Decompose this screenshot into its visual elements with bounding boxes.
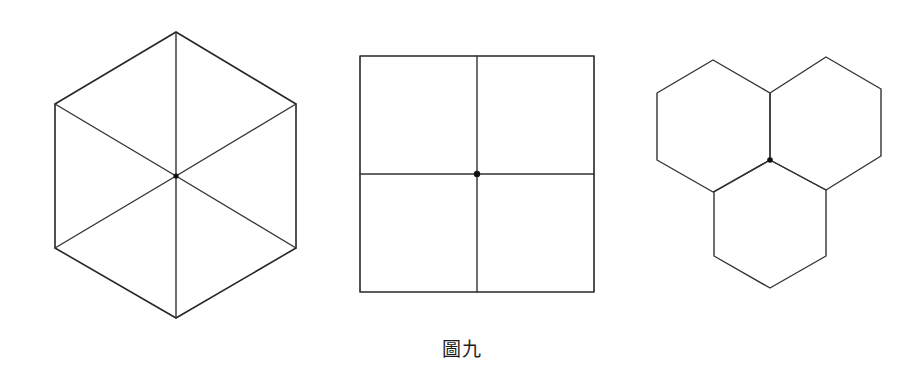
square-center-dot: [474, 171, 480, 177]
figure-illustration: [0, 0, 923, 389]
figure-caption: 圖九: [0, 337, 923, 361]
hexagon-radius-upper-left: [55, 104, 176, 176]
hexagon-cluster-bottom: [714, 160, 826, 288]
hexagon-radius-upper-right: [176, 104, 296, 176]
hexagon-center-dot: [173, 173, 178, 178]
hexagon-radius-lower-right: [176, 176, 296, 248]
hexagon-radius-lower-left: [55, 176, 176, 248]
hexagon-cluster-upper-right: [770, 57, 881, 190]
figure-hexagon-six-triangles: [55, 32, 296, 318]
figure-three-hexagon-cluster: [657, 57, 881, 288]
hexagon-cluster-upper-left: [657, 60, 770, 192]
figure-square-four-quadrants: [360, 56, 594, 292]
hexagon-cluster-center-dot: [767, 157, 773, 163]
figure-page: 圖九: [0, 0, 923, 389]
